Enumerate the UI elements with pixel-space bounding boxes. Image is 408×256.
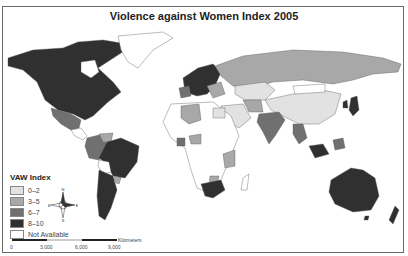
region-new-zealand bbox=[389, 206, 399, 224]
region-africa bbox=[163, 102, 239, 192]
scale-tick: 3,000 bbox=[40, 244, 53, 250]
region-australia bbox=[329, 168, 379, 212]
region-north-america bbox=[8, 40, 133, 120]
legend-label: Not Available bbox=[28, 231, 69, 238]
scale-unit: Kilometers bbox=[118, 237, 142, 243]
svg-text:S: S bbox=[62, 218, 65, 222]
region-russia bbox=[215, 50, 401, 88]
legend-label: 3–5 bbox=[28, 198, 40, 205]
region-india bbox=[257, 112, 285, 144]
svg-text:E: E bbox=[76, 203, 78, 208]
region-argentina-chile bbox=[97, 170, 117, 220]
legend-label: 0–2 bbox=[28, 187, 40, 194]
scale-tick: 6,000 bbox=[75, 244, 88, 250]
legend-swatch bbox=[10, 197, 24, 206]
legend-swatch bbox=[10, 208, 24, 217]
region-japan bbox=[349, 96, 359, 116]
compass-rose-icon: N S W E bbox=[48, 188, 78, 222]
svg-text:N: N bbox=[62, 188, 65, 192]
legend-title: VAW Index bbox=[10, 173, 69, 182]
region-greenland bbox=[118, 32, 173, 68]
legend-swatch bbox=[10, 219, 24, 228]
scale-tick: 9,000 bbox=[108, 244, 121, 250]
legend-swatch bbox=[10, 186, 24, 195]
legend-label: 8–10 bbox=[28, 220, 44, 227]
svg-text:W: W bbox=[48, 203, 51, 208]
scale-tick: 0 bbox=[10, 244, 13, 250]
legend-label: 6–7 bbox=[28, 209, 40, 216]
